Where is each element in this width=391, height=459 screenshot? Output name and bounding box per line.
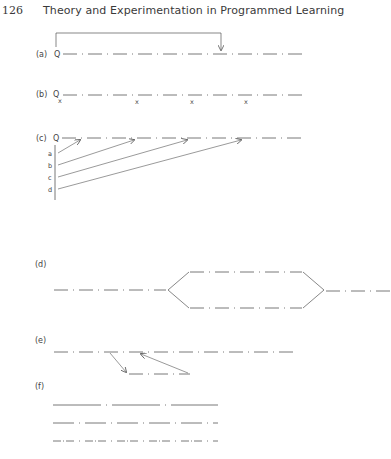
split-upper [168, 272, 189, 290]
branch-out-arrow [110, 353, 126, 372]
panel-e-label: (e) [35, 336, 46, 345]
panel-c-q-marker: Q [53, 134, 59, 143]
join-upper [303, 272, 324, 290]
entry-label-d: d [48, 186, 52, 194]
split-lower [168, 290, 189, 308]
panel-b: (b) Q x x x x [36, 90, 302, 106]
panel-a-label: (a) [36, 50, 47, 59]
panel-d-label: (d) [35, 260, 46, 269]
x-mark-1: x [58, 97, 62, 105]
entry-label-a: a [48, 150, 52, 158]
panel-e: (e) [35, 336, 296, 374]
entry-arrow-a [58, 140, 80, 153]
entry-label-b: b [48, 162, 52, 170]
x-mark-4: x [244, 98, 248, 106]
x-mark-3: x [190, 98, 194, 106]
panel-b-label: (b) [36, 90, 47, 99]
panel-f-label: (f) [35, 382, 44, 391]
panel-c-label: (c) [36, 134, 47, 143]
loop-back-arrow [56, 33, 221, 50]
panel-c: (c) Q a b c d [36, 134, 302, 200]
panel-f: (f) [35, 382, 218, 441]
panel-a-q-marker: Q [54, 50, 60, 59]
x-mark-2: x [135, 98, 139, 106]
panel-a: (a) Q [36, 33, 302, 59]
return-arrow [141, 354, 188, 373]
entry-arrow-d [58, 140, 241, 189]
programmed-learning-figure: (a) Q (b) Q x x x x (c) Q a b c d (d) [0, 0, 391, 459]
entry-label-c: c [48, 174, 52, 182]
join-lower [303, 290, 324, 308]
panel-d: (d) [35, 260, 391, 308]
entry-arrow-b [58, 140, 134, 165]
